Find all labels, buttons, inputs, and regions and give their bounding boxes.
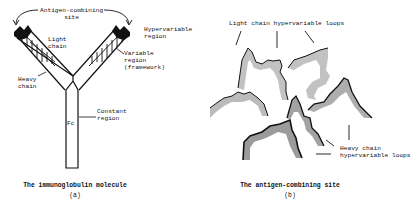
label-light-chain-loops: Light chain hypervariable loops xyxy=(229,20,344,27)
sublabel-b: (b) xyxy=(230,192,350,199)
caption-immunoglobulin: The immunoglobulin molecule xyxy=(10,182,140,189)
light-loop-3 xyxy=(210,92,268,118)
arrow-right xyxy=(104,10,129,24)
light-loop-1 xyxy=(238,48,288,100)
heavy-loop-3 xyxy=(243,120,302,160)
label-light-chain: Light chain xyxy=(48,36,67,50)
label-hypervariable-region: Hypervariable region xyxy=(144,26,192,40)
light-loop-pointers xyxy=(236,31,314,48)
hypervariable-tip-right xyxy=(112,25,130,40)
label-constant-region: Constant region xyxy=(97,108,127,122)
panel-immunoglobulin-molecule: Antigen-combining site Hypervariable reg… xyxy=(0,0,210,205)
light-loop-2 xyxy=(288,48,330,100)
sublabel-a: (a) xyxy=(10,192,140,199)
label-heavy-chain-loops: Heavy chain hypervariable loops xyxy=(340,145,411,159)
antigen-site-loops-diagram xyxy=(210,0,420,205)
label-variable-region: Variable region (framework) xyxy=(124,50,165,71)
label-antigen-combining-site: Antigen-combining site xyxy=(40,7,103,21)
caption-antigen-site: The antigen-combining site xyxy=(230,182,350,189)
arrow-left xyxy=(16,10,38,24)
panel-antigen-combining-site: Light chain hypervariable loops Heavy ch… xyxy=(210,0,420,205)
hypervariable-tip-left xyxy=(14,25,32,40)
label-heavy-chain: Heavy chain xyxy=(18,76,37,90)
label-fc: Fc xyxy=(67,120,74,127)
